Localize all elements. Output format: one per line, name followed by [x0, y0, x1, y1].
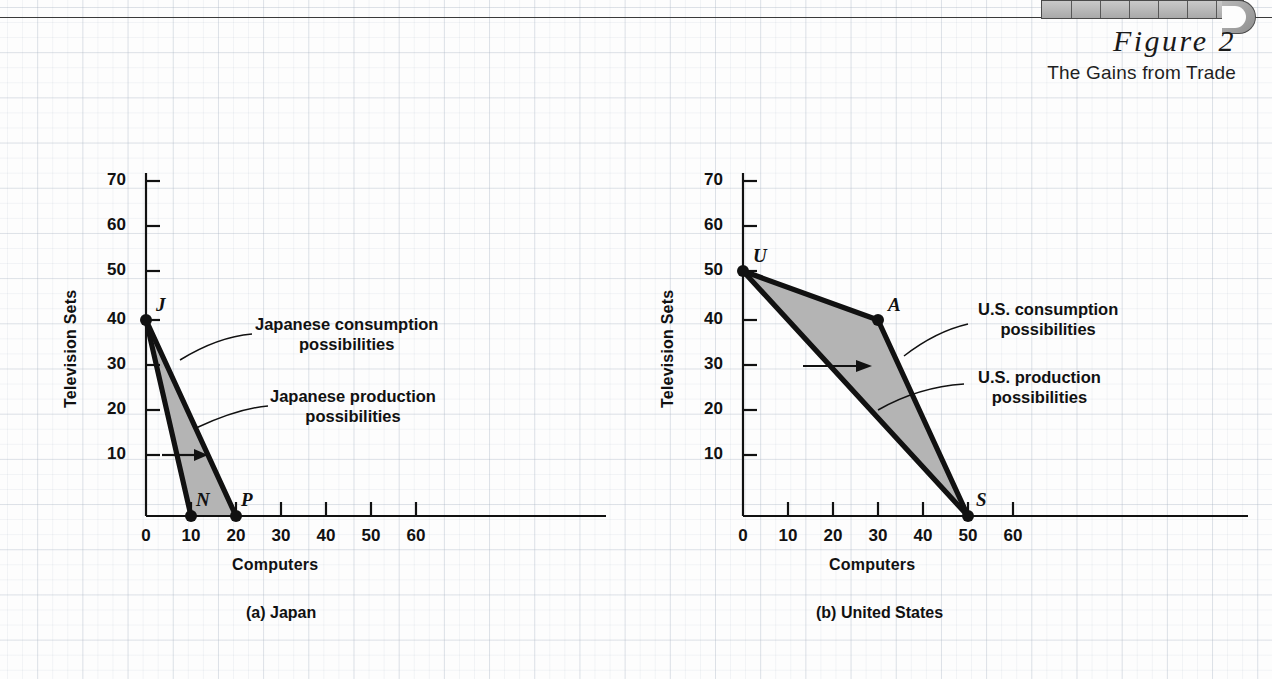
japan-xtick-60: 60: [396, 526, 436, 546]
japan-production-annotation: Japanese production possibilities: [270, 386, 436, 426]
chart-panel-united-states: 70 60 50 40 30 20 10 0 10 20 30 40 50 60…: [616, 108, 1272, 648]
us-ytick-10: 10: [675, 444, 723, 464]
japan-production-annotation-line1: Japanese production: [270, 386, 436, 406]
japan-ytick-70: 70: [78, 170, 126, 190]
us-xtick-10: 10: [768, 526, 808, 546]
japan-point-label-N: N: [196, 489, 210, 511]
us-subcaption: (b) United States: [816, 604, 943, 622]
us-ytick-20: 20: [675, 399, 723, 419]
us-point-label-S: S: [976, 489, 987, 511]
us-xtick-60: 60: [993, 526, 1033, 546]
japan-point-label-P: P: [241, 489, 253, 511]
us-point-label-U: U: [753, 245, 767, 267]
japan-xtick-10: 10: [171, 526, 211, 546]
japan-ytick-10: 10: [78, 444, 126, 464]
japan-xtick-30: 30: [261, 526, 301, 546]
japan-point-N: [185, 510, 197, 522]
us-xtick-50: 50: [948, 526, 988, 546]
us-point-A: [872, 314, 884, 326]
figure-number: Figure 2: [1113, 24, 1236, 58]
japan-production-leader-line: [196, 406, 268, 428]
japan-consumption-annotation: Japanese consumption possibilities: [255, 314, 438, 354]
japan-ytick-30: 30: [78, 354, 126, 374]
us-production-possibilities-line: [743, 271, 968, 516]
us-consumption-annotation: U.S. consumption possibilities: [978, 299, 1118, 339]
us-xtick-0: 0: [723, 526, 763, 546]
us-production-annotation-line1: U.S. production: [978, 367, 1101, 387]
japan-xtick-20: 20: [216, 526, 256, 546]
japan-xtick-0: 0: [126, 526, 166, 546]
us-point-label-A: A: [888, 294, 901, 316]
japan-y-axis-title: Television Sets: [62, 290, 80, 408]
chart-panel-japan: 70 60 50 40 30 20 10 0 10 20 30 40 50 60…: [0, 108, 636, 648]
japan-ytick-50: 50: [78, 260, 126, 280]
figure-title: The Gains from Trade: [1047, 62, 1236, 84]
japan-consumption-annotation-line2: possibilities: [255, 334, 438, 354]
japan-xtick-50: 50: [351, 526, 391, 546]
us-production-annotation-line2: possibilities: [978, 387, 1101, 407]
japan-x-axis-title: Computers: [232, 556, 318, 574]
japan-ytick-40: 40: [78, 309, 126, 329]
us-xtick-20: 20: [813, 526, 853, 546]
us-ytick-40: 40: [675, 309, 723, 329]
us-point-S: [962, 510, 974, 522]
us-production-annotation: U.S. production possibilities: [978, 367, 1101, 407]
page-tab-decoration-icon: [1041, 0, 1244, 19]
us-xtick-40: 40: [903, 526, 943, 546]
japan-point-P: [230, 510, 242, 522]
japan-xtick-40: 40: [306, 526, 346, 546]
us-consumption-annotation-line2: possibilities: [978, 319, 1118, 339]
us-point-U: [737, 265, 749, 277]
japan-ytick-20: 20: [78, 399, 126, 419]
japan-point-J: [140, 314, 152, 326]
japan-production-annotation-line2: possibilities: [270, 406, 436, 426]
figure-page: Figure 2 The Gains from Trade: [0, 0, 1272, 679]
japan-subcaption: (a) Japan: [246, 604, 316, 622]
japan-consumption-annotation-line1: Japanese consumption: [255, 314, 438, 334]
us-consumption-leader-line: [904, 324, 968, 356]
japan-ytick-60: 60: [78, 215, 126, 235]
us-x-axis-title: Computers: [829, 556, 915, 574]
us-ytick-60: 60: [675, 215, 723, 235]
us-ytick-30: 30: [675, 354, 723, 374]
us-ytick-50: 50: [675, 260, 723, 280]
us-y-axis-title: Television Sets: [659, 290, 677, 408]
us-xtick-30: 30: [858, 526, 898, 546]
us-ytick-70: 70: [675, 170, 723, 190]
us-consumption-annotation-line1: U.S. consumption: [978, 299, 1118, 319]
japan-point-label-J: J: [156, 294, 166, 316]
japan-consumption-leader-line: [180, 334, 252, 360]
